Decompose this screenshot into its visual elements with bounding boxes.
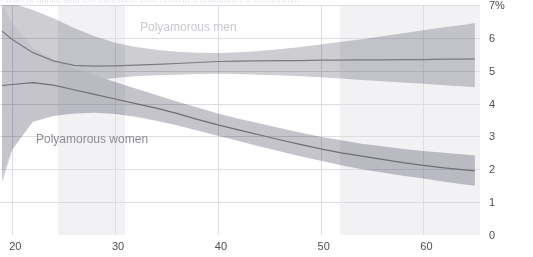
y-axis-tick-label: 3 — [489, 131, 529, 142]
y-axis-tick-label: 6 — [489, 33, 529, 44]
series-label-women: Polyamorous women — [36, 133, 148, 146]
chart-container: Share of adults who say they have ever b… — [0, 0, 533, 257]
y-axis-tick-label: 4 — [489, 99, 529, 110]
y-axis-tick-label: 1 — [489, 197, 529, 208]
x-axis-tick-label: 20 — [9, 240, 21, 252]
chart-title-cropped: Share of adults who say they have ever b… — [0, 0, 480, 3]
plot-area: Polyamorous men Polyamorous women — [0, 5, 480, 235]
y-axis: 7%6543210 — [489, 0, 533, 257]
y-axis-tick-label: 5 — [489, 66, 529, 77]
series-label-men: Polyamorous men — [140, 21, 237, 34]
x-axis-tick-label: 30 — [112, 240, 124, 252]
y-axis-tick-label: 2 — [489, 164, 529, 175]
x-axis-tick-label: 50 — [318, 240, 330, 252]
x-axis: 2030405060 — [0, 238, 480, 257]
y-axis-tick-label: 0 — [489, 230, 529, 241]
y-axis-tick-label: 7% — [489, 0, 529, 11]
series-layer — [0, 5, 480, 235]
x-axis-tick-label: 40 — [215, 240, 227, 252]
x-axis-tick-label: 60 — [420, 240, 432, 252]
